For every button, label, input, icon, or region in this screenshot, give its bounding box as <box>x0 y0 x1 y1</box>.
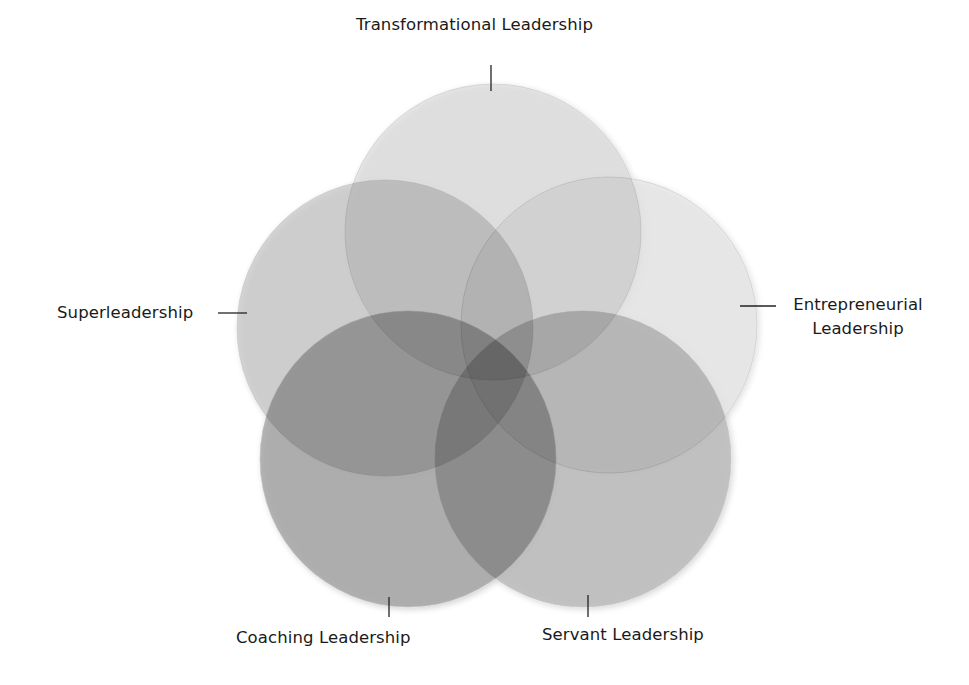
label-servant-leadership: Servant Leadership <box>542 624 704 645</box>
venn-diagram <box>0 0 969 685</box>
label-entrepreneurial-line2: Leadership <box>783 318 933 339</box>
label-superleadership: Superleadership <box>57 302 193 323</box>
label-transformational-leadership: Transformational Leadership <box>356 14 593 35</box>
label-entrepreneurial-leadership: Entrepreneurial Leadership <box>783 294 933 339</box>
label-entrepreneurial-line1: Entrepreneurial <box>783 294 933 315</box>
circle-servant <box>435 311 731 607</box>
label-coaching-leadership: Coaching Leadership <box>236 627 411 648</box>
